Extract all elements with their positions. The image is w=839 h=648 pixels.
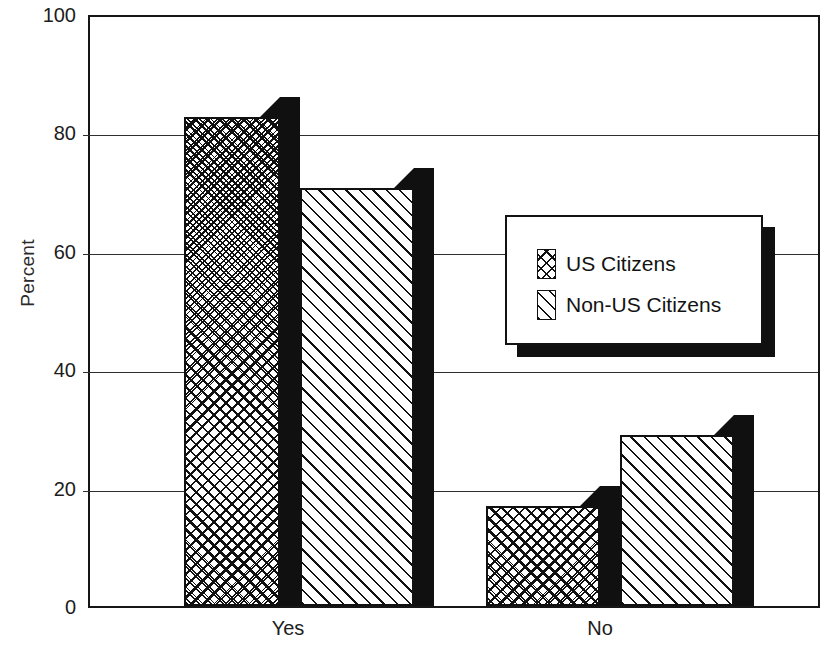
y-tick-label-80: 80 — [14, 123, 76, 143]
y-tick-mark-20 — [83, 491, 90, 492]
x-tick-label-yes: Yes — [228, 617, 348, 640]
bar-yes-us-citizens — [184, 97, 300, 606]
legend-label-us-citizens: US Citizens — [566, 252, 676, 276]
y-tick-label-100: 100 — [14, 5, 76, 25]
x-tick-label-no: No — [540, 617, 660, 640]
y-tick-mark-60 — [83, 254, 90, 255]
bar-side-face — [734, 435, 754, 606]
bar-top-face — [394, 168, 434, 188]
y-tick-mark-80 — [83, 135, 90, 136]
diagonal-swatch-icon — [537, 290, 556, 320]
bar-top-face — [714, 415, 754, 435]
bar-top-face — [580, 486, 620, 506]
bar-front-face — [300, 188, 414, 606]
bar-front-face — [486, 506, 600, 606]
y-tick-mark-40 — [83, 372, 90, 373]
y-tick-label-20: 20 — [14, 479, 76, 499]
bar-no-us-citizens — [486, 486, 620, 606]
crosshatch-swatch-icon — [537, 249, 556, 279]
y-tick-label-40: 40 — [14, 360, 76, 380]
y-axis-tick-labels: 100 80 60 40 20 0 — [0, 0, 76, 648]
y-tick-label-60: 60 — [14, 242, 76, 262]
bar-no-non-us-citizens — [620, 415, 754, 606]
bar-chart: Percent 100 80 60 40 20 0 — [0, 0, 839, 648]
bar-side-face — [600, 506, 620, 606]
bar-front-face — [620, 435, 734, 606]
legend-label-non-us-citizens: Non-US Citizens — [566, 293, 721, 317]
bar-front-face — [184, 117, 280, 606]
bar-top-face — [260, 97, 300, 117]
bar-yes-non-us-citizens — [300, 168, 434, 606]
bar-side-face — [414, 188, 434, 606]
y-tick-label-0: 0 — [14, 597, 76, 617]
legend: US Citizens Non-US Citizens — [505, 215, 763, 345]
legend-entry-non-us-citizens: Non-US Citizens — [537, 290, 721, 320]
legend-entry-us-citizens: US Citizens — [537, 249, 676, 279]
bar-side-face — [280, 117, 300, 606]
